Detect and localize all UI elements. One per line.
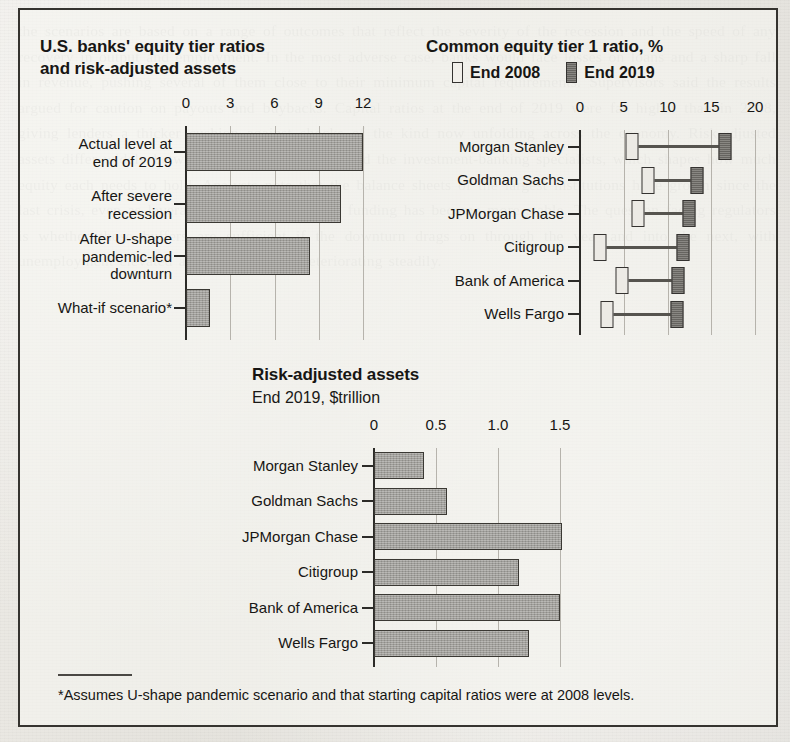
x-axis-tick-label: 0 (182, 94, 190, 111)
connector-line (622, 279, 678, 282)
category-tick (568, 313, 579, 315)
category-tick (174, 307, 185, 309)
footnote-rule (58, 674, 132, 676)
bar (374, 630, 529, 657)
marker-end-2008 (642, 167, 655, 194)
connector-line (600, 246, 683, 249)
x-axis-tick-label: 3 (226, 94, 234, 111)
bar (186, 185, 341, 223)
marker-end-2008 (601, 301, 614, 328)
bar (374, 488, 447, 515)
category-label: Morgan Stanley (20, 457, 358, 475)
category-tick (362, 571, 373, 573)
y-axis-line (579, 130, 581, 335)
category-label: Citigroup (20, 564, 358, 582)
category-tick (362, 500, 373, 502)
footnote-text: *Assumes U-shape pandemic scenario and t… (58, 686, 758, 704)
category-tick (568, 213, 579, 215)
x-axis-tick-label: 5 (620, 98, 628, 115)
marker-end-2008 (594, 234, 607, 261)
connector-line (632, 145, 726, 148)
category-tick (568, 280, 579, 282)
cet1-plot-area: 05101520Morgan StanleyGoldman SachsJPMor… (400, 10, 780, 330)
category-tick (568, 246, 579, 248)
x-axis-tick-label: 0 (370, 416, 378, 433)
x-axis-tick-label: 6 (270, 94, 278, 111)
panel-equity-tier: U.S. banks' equity tier ratios and risk-… (20, 10, 400, 330)
bar (374, 452, 424, 479)
category-label: JPMorgan Chase (20, 528, 358, 546)
x-axis-tick-label: 9 (315, 94, 323, 111)
x-axis-tick-label: 10 (659, 98, 676, 115)
category-label: After severe recession (20, 187, 172, 222)
x-axis-tick-label: 20 (747, 98, 764, 115)
category-label: Bank of America (400, 272, 564, 290)
category-label: Bank of America (20, 599, 358, 617)
x-axis-tick-label: 0 (576, 98, 584, 115)
gridline (560, 448, 561, 667)
category-tick (174, 151, 185, 153)
bar (374, 559, 519, 586)
rwa-plot-area: 00.51.01.5Morgan StanleyGoldman SachsJPM… (20, 330, 780, 670)
category-label: Wells Fargo (20, 635, 358, 653)
category-tick (568, 146, 579, 148)
gridline (711, 130, 712, 335)
bar (374, 594, 560, 621)
category-tick (174, 203, 185, 205)
category-tick (568, 179, 579, 181)
category-label: Goldman Sachs (20, 493, 358, 511)
connector-line (638, 212, 689, 215)
marker-end-2019 (671, 301, 684, 328)
category-label: Citigroup (400, 239, 564, 257)
gridline (668, 130, 669, 335)
marker-end-2019 (719, 133, 732, 160)
marker-end-2008 (616, 267, 629, 294)
category-label: After U-shape pandemic-led downturn (20, 230, 172, 283)
category-tick (362, 536, 373, 538)
marker-end-2019 (682, 200, 695, 227)
marker-end-2019 (672, 267, 685, 294)
connector-line (607, 313, 677, 316)
marker-end-2008 (631, 200, 644, 227)
category-tick (362, 607, 373, 609)
marker-end-2008 (625, 133, 638, 160)
bar (186, 289, 210, 327)
x-axis-tick-label: 0.5 (426, 416, 447, 433)
category-tick (362, 465, 373, 467)
marker-end-2019 (691, 167, 704, 194)
bar (186, 237, 310, 275)
gridline (363, 126, 364, 340)
equity-tier-plot-area: 036912Actual level at end of 2019After s… (20, 10, 400, 330)
category-label: Actual level at end of 2019 (20, 135, 172, 170)
x-axis-tick-label: 1.0 (488, 416, 509, 433)
marker-end-2019 (677, 234, 690, 261)
x-axis-tick-label: 15 (703, 98, 720, 115)
panel-rwa: Risk-adjusted assets End 2019, $trillion… (20, 330, 780, 670)
figure-page: the scenarios are based on a range of ou… (0, 0, 790, 742)
gridline (624, 130, 625, 335)
gridline (755, 130, 756, 335)
category-label: Morgan Stanley (400, 138, 564, 156)
category-label: JPMorgan Chase (400, 205, 564, 223)
x-axis-tick-label: 1.5 (550, 416, 571, 433)
x-axis-tick-label: 12 (355, 94, 372, 111)
category-tick (174, 255, 185, 257)
category-label: What-if scenario* (20, 299, 172, 317)
chart-frame: U.S. banks' equity tier ratios and risk-… (18, 8, 778, 727)
panel-cet1: Common equity tier 1 ratio, % End 2008 E… (400, 10, 780, 330)
category-tick (362, 642, 373, 644)
bar (186, 133, 363, 171)
category-label: Wells Fargo (400, 306, 564, 324)
category-label: Goldman Sachs (400, 172, 564, 190)
bar (374, 523, 562, 550)
